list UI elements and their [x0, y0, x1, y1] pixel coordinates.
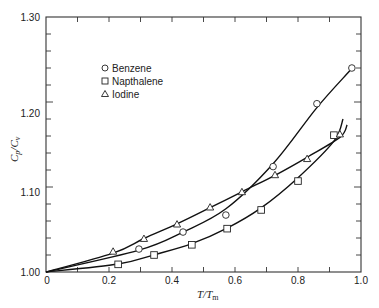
marker-circle-benzene [349, 65, 356, 72]
legend-square-icon [102, 78, 108, 84]
y-tick-label-1-10: 1.10 [21, 187, 41, 198]
marker-square-napthalene [115, 261, 122, 268]
legend-label-benzene: Benzene [112, 63, 152, 74]
legend-label-iodine: Iodine [112, 89, 140, 100]
plot-frame [46, 17, 361, 272]
legend-circle-icon [102, 65, 108, 71]
x-tick-label-0-2: 0.2 [102, 275, 116, 286]
marker-circle-benzene [180, 229, 187, 236]
x-tick-label-0-4: 0.4 [165, 275, 179, 286]
x-tick-label-1-0: 1.0 [354, 275, 368, 286]
marker-circle-benzene [270, 163, 277, 170]
marker-triangle-iodine [238, 188, 245, 194]
marker-circle-benzene [136, 246, 143, 253]
plot-border [46, 17, 361, 272]
marker-triangle-iodine [173, 221, 180, 227]
y-tick-label-1-30: 1.30 [21, 12, 41, 23]
legend: Benzene Napthalene Iodine [102, 63, 164, 100]
axis-ticks [46, 17, 361, 272]
x-tick-label-0-6: 0.6 [228, 275, 242, 286]
legend-triangle-icon [102, 91, 109, 97]
marker-triangle-iodine [109, 248, 116, 254]
marker-circle-benzene [314, 100, 321, 107]
marker-triangle-iodine [140, 235, 147, 241]
marker-square-napthalene [258, 207, 265, 214]
chart: 1.00 1.10 1.20 1.30 0 0.2 0.4 0.6 0.8 1.… [0, 0, 379, 308]
marker-square-napthalene [295, 178, 302, 185]
y-axis-label: Cp/Cv [8, 136, 22, 162]
curve-iodine [46, 125, 347, 272]
marker-square-napthalene [189, 242, 196, 249]
marker-square-napthalene [331, 132, 338, 139]
marker-square-napthalene [224, 225, 231, 232]
curve-napthalene [46, 119, 343, 272]
x-tick-label-0-8: 0.8 [291, 275, 305, 286]
fit-curves [46, 67, 353, 272]
marker-square-napthalene [151, 252, 158, 259]
x-axis-label: T/Tm [197, 288, 219, 302]
y-tick-label-1-20: 1.20 [21, 108, 41, 119]
legend-label-napthalene: Napthalene [112, 76, 164, 87]
x-tick-label-0: 0 [44, 275, 50, 286]
marker-circle-benzene [223, 212, 230, 219]
y-tick-label-1-00: 1.00 [21, 267, 41, 278]
